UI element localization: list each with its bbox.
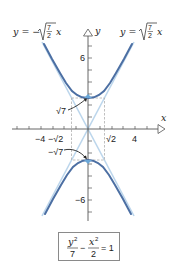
eq-y: y [67,236,74,247]
svg-text:2: 2 [47,32,51,39]
x-tick-4: 4 [132,134,137,144]
y-tick-neg6: −6 [75,195,85,205]
eq-den-2: 2 [91,249,96,259]
x-tick-neg4: −4 [35,134,45,144]
svg-text:x: x [56,26,62,37]
asymptote-right-label: y = 7 2 x [119,23,163,40]
asymptote-left-label: y = − 7 2 x [12,23,62,40]
vertex-bottom-marker-icon [84,160,92,164]
svg-text:7: 7 [47,24,51,31]
eq-y-exp: 2 [74,236,78,242]
svg-text:x: x [157,26,163,37]
x-axis-arrow-icon [158,125,165,134]
svg-text:2: 2 [148,32,152,39]
x-tick-neg-sqrt2: −√2 [48,134,63,144]
svg-text:7: 7 [148,24,152,31]
hyperbola-figure: y x −4 −√2 √2 4 6 −6 √7 −√7 y = − 7 2 x … [0,0,176,263]
y-axis-arrow-icon [84,29,93,36]
y-tick-6: 6 [80,53,85,63]
eq-rhs: = 1 [101,243,114,253]
x-axis-label: x [161,112,167,123]
y-axis-label: y [94,25,101,36]
eq-minus: − [80,243,85,253]
svg-text:y =: y = [119,26,136,37]
equation-box: y 2 7 − x 2 2 = 1 [58,232,120,261]
eq-x-exp: 2 [95,236,99,242]
vertex-top-marker-icon [84,94,92,98]
x-tick-sqrt2: √2 [106,134,116,144]
eq-den-7: 7 [70,249,75,259]
svg-text:y = −: y = − [12,26,40,37]
vertex-label-bottom: −√7 [48,147,63,157]
vertex-label-top: √7 [56,106,66,116]
